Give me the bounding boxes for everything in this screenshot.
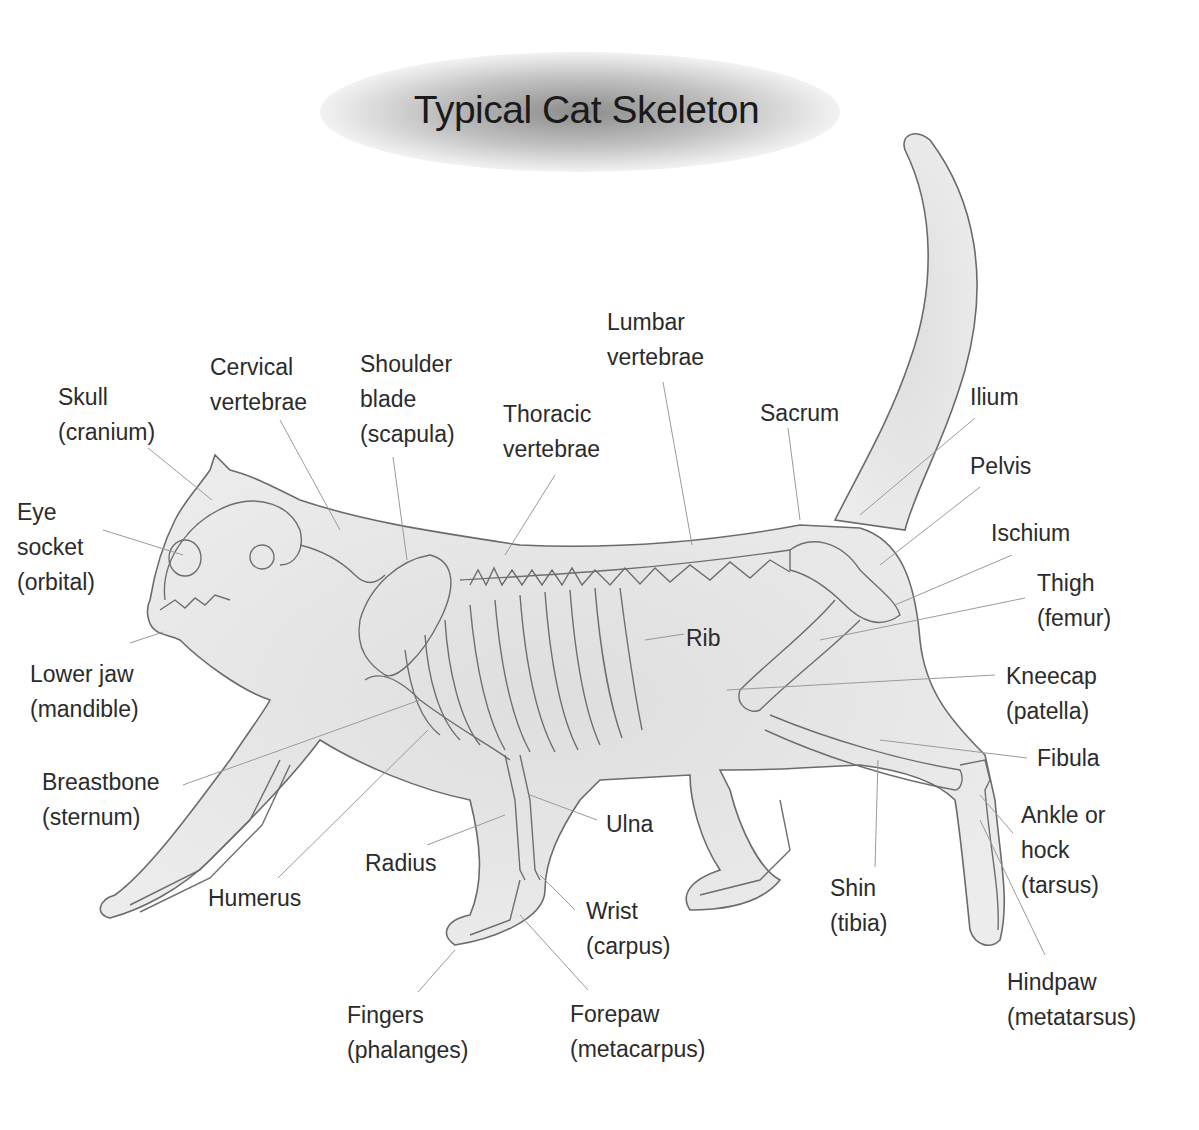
label-cervical: Cervical vertebrae xyxy=(210,350,307,420)
label-sacrum: Sacrum xyxy=(760,396,839,431)
label-pelvis: Pelvis xyxy=(970,449,1031,484)
cat-body-outline xyxy=(100,134,1004,945)
label-jaw: Lower jaw (mandible) xyxy=(30,657,139,727)
label-shoulder: Shoulder blade (scapula) xyxy=(360,347,455,452)
label-ulna: Ulna xyxy=(606,807,653,842)
label-rib: Rib xyxy=(686,621,721,656)
label-thoracic: Thoracic vertebrae xyxy=(503,397,600,467)
label-thigh: Thigh (femur) xyxy=(1037,566,1111,636)
label-eye: Eye socket (orbital) xyxy=(17,495,95,600)
label-ischium: Ischium xyxy=(991,516,1070,551)
label-radius: Radius xyxy=(365,846,437,881)
label-ilium: Ilium xyxy=(970,380,1019,415)
label-hindpaw: Hindpaw (metatarsus) xyxy=(1007,965,1136,1035)
label-humerus: Humerus xyxy=(208,881,301,916)
label-fingers: Fingers (phalanges) xyxy=(347,998,468,1068)
label-breastbone: Breastbone (sternum) xyxy=(42,765,160,835)
label-skull: Skull (cranium) xyxy=(58,380,155,450)
label-shin: Shin (tibia) xyxy=(830,871,888,941)
label-ankle: Ankle or hock (tarsus) xyxy=(1021,798,1105,903)
label-forepaw: Forepaw (metacarpus) xyxy=(570,997,705,1067)
label-wrist: Wrist (carpus) xyxy=(586,894,670,964)
label-lumbar: Lumbar vertebrae xyxy=(607,305,704,375)
label-kneecap: Kneecap (patella) xyxy=(1006,659,1097,729)
label-fibula: Fibula xyxy=(1037,741,1100,776)
